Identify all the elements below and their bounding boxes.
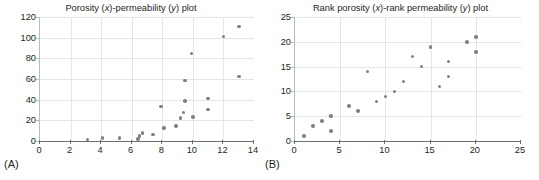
gridline-horizontal (40, 120, 254, 121)
x-tick-label: 2 (67, 144, 72, 156)
x-tick-label: 25 (515, 144, 525, 156)
panel-b-x-axis: 0510152025 (294, 144, 521, 158)
panel-a-title: Porosity (x)-permeability (y) plot (0, 2, 262, 14)
data-point (347, 104, 351, 108)
data-point (151, 133, 155, 137)
panel-a-title-text: Porosity (x)-permeability (y) plot (65, 3, 196, 13)
data-point (384, 95, 388, 99)
y-tick-label: 100 (20, 33, 36, 43)
data-point (237, 25, 241, 29)
panel-a-plot-area (39, 17, 254, 142)
x-tick-label: 0 (36, 144, 41, 156)
gridline-horizontal (40, 17, 254, 18)
x-tick-label: 8 (159, 144, 164, 156)
data-point (411, 55, 415, 59)
data-point (356, 109, 360, 113)
data-point (366, 70, 370, 74)
x-tick-label: 20 (470, 144, 480, 156)
panel-b-title: Rank porosity (x)-rank permeability (y) … (262, 2, 539, 14)
y-tick-label: 15 (281, 62, 291, 72)
data-point (320, 119, 324, 123)
data-point (118, 136, 122, 140)
data-point (474, 35, 478, 39)
data-point (101, 136, 105, 140)
data-point (438, 85, 442, 89)
data-point (420, 65, 424, 69)
y-tick-label: 120 (20, 12, 36, 22)
panel-b: Rank porosity (x)-rank permeability (y) … (262, 0, 539, 180)
x-tick-label: 15 (424, 144, 434, 156)
x-tick-label: 0 (291, 144, 296, 156)
gridline-horizontal (295, 67, 521, 68)
y-tick-mark (291, 91, 295, 92)
x-tick-label: 14 (248, 144, 258, 156)
y-tick-label: 25 (281, 12, 291, 22)
y-tick-label: 60 (26, 74, 36, 84)
y-tick-mark (291, 116, 295, 117)
data-point (393, 90, 397, 94)
y-tick-label: 40 (26, 95, 36, 105)
data-point (141, 131, 145, 135)
gridline-horizontal (40, 79, 254, 80)
x-tick-label: 10 (187, 144, 197, 156)
y-tick-mark (36, 120, 40, 121)
data-point (329, 129, 333, 133)
gridline-vertical (71, 17, 72, 141)
gridline-vertical (132, 17, 133, 141)
gridline-horizontal (40, 58, 254, 59)
y-tick-label: 0 (286, 136, 291, 146)
data-point (86, 138, 90, 142)
data-point (429, 45, 433, 49)
gridline-vertical (162, 17, 163, 141)
gridline-horizontal (40, 100, 254, 101)
data-point (174, 124, 178, 128)
panel-a-x-axis: 02468101214 (39, 144, 254, 158)
panel-b-plot-area (294, 17, 521, 142)
data-point (183, 79, 187, 83)
y-tick-label: 10 (281, 86, 291, 96)
y-tick-mark (36, 79, 40, 80)
gridline-horizontal (295, 91, 521, 92)
gridline-vertical (101, 17, 102, 141)
gridline-vertical (193, 17, 194, 141)
y-tick-mark (36, 100, 40, 101)
data-point (183, 99, 187, 103)
y-tick-mark (36, 17, 40, 18)
gridline-vertical (385, 17, 386, 141)
data-point (465, 40, 469, 44)
panel-a-y-axis: 020406080100120 (5, 17, 36, 142)
panel-b-y-axis: 0510152025 (262, 17, 291, 142)
y-tick-label: 20 (26, 115, 36, 125)
x-tick-label: 10 (379, 144, 389, 156)
figure-two-scatter-plots: Porosity (x)-permeability (y) plot 02040… (0, 0, 539, 180)
y-tick-label: 0 (31, 136, 36, 146)
data-point (474, 50, 478, 54)
panel-a-label: (A) (4, 158, 19, 171)
data-point (191, 115, 195, 119)
gridline-horizontal (295, 42, 521, 43)
y-tick-mark (291, 42, 295, 43)
y-tick-label: 20 (281, 37, 291, 47)
panel-a: Porosity (x)-permeability (y) plot 02040… (0, 0, 262, 180)
y-tick-mark (36, 38, 40, 39)
data-point (206, 108, 210, 112)
x-tick-label: 12 (217, 144, 227, 156)
y-tick-label: 80 (26, 53, 36, 63)
panel-b-title-text: Rank porosity (x)-rank permeability (y) … (313, 3, 488, 13)
y-tick-label: 5 (286, 111, 291, 121)
gridline-horizontal (295, 17, 521, 18)
panel-b-label: (B) (265, 158, 280, 171)
gridline-vertical (431, 17, 432, 141)
data-point (162, 126, 166, 130)
data-point (402, 80, 406, 84)
data-point (182, 111, 186, 115)
y-tick-mark (291, 17, 295, 18)
gridline-vertical (340, 17, 341, 141)
x-tick-label: 5 (337, 144, 342, 156)
y-tick-mark (36, 58, 40, 59)
y-tick-mark (291, 67, 295, 68)
data-point (311, 124, 315, 128)
x-tick-label: 6 (128, 144, 133, 156)
data-point (159, 105, 163, 109)
data-point (447, 75, 451, 79)
